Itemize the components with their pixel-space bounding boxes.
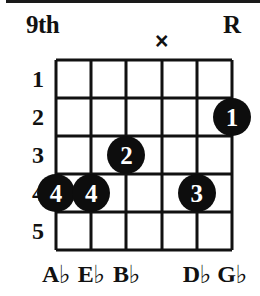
fret-number-1: 1 <box>18 67 44 91</box>
fret-line-4 <box>56 211 232 214</box>
fret-line-top <box>56 59 232 62</box>
mute-marker-string-4: × <box>155 30 168 53</box>
fret-line-1 <box>56 97 232 100</box>
finger-dot-string-1-fret-4: 4 <box>37 174 75 212</box>
note-name-string-5: D♭ <box>183 262 211 287</box>
string-line-5 <box>195 60 198 250</box>
root-marker-string-6: R <box>223 12 241 37</box>
string-line-4 <box>160 60 163 250</box>
note-name-string-2: E♭ <box>78 262 105 287</box>
finger-dot-string-2-fret-4: 4 <box>72 174 110 212</box>
fret-line-5 <box>56 249 232 252</box>
fret-number-3: 3 <box>18 143 44 167</box>
finger-dot-string-3-fret-3: 2 <box>107 136 145 174</box>
fret-line-2 <box>56 135 232 138</box>
finger-dot-string-5-fret-4: 3 <box>178 174 216 212</box>
note-name-string-3: B♭ <box>113 262 140 287</box>
note-name-string-6: G♭ <box>217 262 246 287</box>
fret-number-2: 2 <box>18 105 44 129</box>
fret-number-5: 5 <box>18 219 44 243</box>
note-name-string-1: A♭ <box>42 262 70 287</box>
string-line-1 <box>55 60 58 250</box>
string-line-2 <box>90 60 93 250</box>
finger-dot-string-6-fret-2: 1 <box>213 98 251 136</box>
string-line-6 <box>231 60 234 250</box>
guitar-chord-diagram: 9th R × 12345 12344 A♭E♭B♭D♭G♭ <box>0 0 260 296</box>
fret-position-label: 9th <box>26 12 59 37</box>
